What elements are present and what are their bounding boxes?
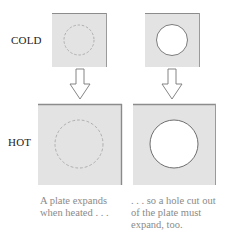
hot-plate-with-hole — [133, 104, 216, 185]
cold-label: COLD — [11, 34, 42, 46]
cold-plate-with-hole — [145, 13, 200, 67]
hole — [157, 25, 188, 56]
caption-line: A plate expands — [40, 195, 109, 207]
caption-right: . . . so a hole cut out of the plate mus… — [131, 195, 216, 231]
hot-label: HOT — [8, 136, 31, 148]
hot-plate — [38, 104, 122, 185]
arrow-down-icon — [70, 69, 90, 99]
caption-line: . . . so a hole cut out — [131, 195, 216, 207]
caption-line: when heated . . . — [40, 207, 109, 219]
hole — [150, 120, 198, 168]
cold-plate — [52, 13, 107, 67]
caption-left: A plate expands when heated . . . — [40, 195, 109, 219]
arrow-down-icon — [162, 69, 182, 99]
caption-line: of the plate must — [131, 207, 216, 219]
caption-line: expand, too. — [131, 219, 216, 231]
